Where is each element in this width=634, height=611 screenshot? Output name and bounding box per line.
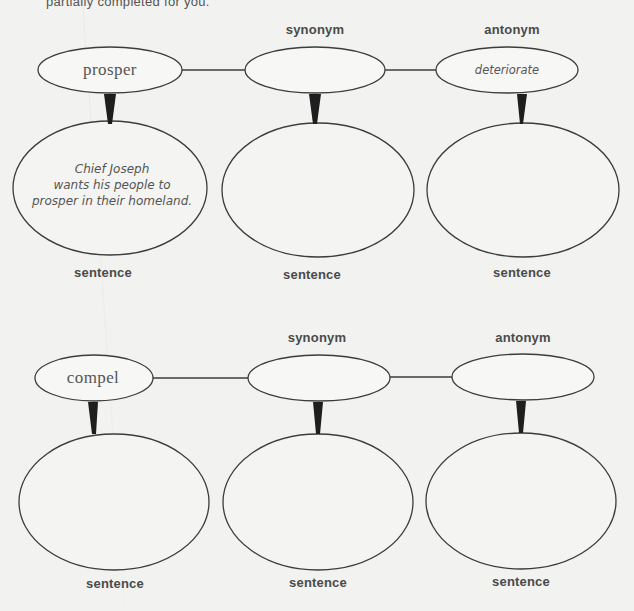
synonym-header: synonym	[288, 330, 346, 345]
sentence-label: sentence	[289, 575, 347, 590]
sentence-input[interactable]	[448, 145, 598, 235]
sentence-input[interactable]	[446, 456, 596, 546]
sentence-label: sentence	[493, 265, 551, 280]
sentence-input[interactable]	[243, 145, 393, 235]
synonym-oval	[248, 355, 390, 401]
antonym-oval	[452, 354, 594, 400]
sentence-line: Chief Joseph	[32, 161, 192, 177]
vocab-word: prosper	[83, 60, 137, 80]
antonym-header: antonym	[495, 330, 551, 345]
sentence-label: sentence	[74, 265, 132, 280]
sentence-input[interactable]	[243, 457, 393, 547]
antonym-input[interactable]: deteriorate	[475, 62, 539, 78]
sentence-label: sentence	[86, 576, 144, 591]
vocab-word: compel	[67, 368, 119, 388]
sentence-line: wants his people to	[32, 177, 192, 193]
sentence-input[interactable]: Chief Joseph wants his people to prosper…	[32, 161, 192, 209]
synonym-oval	[245, 47, 385, 93]
sentence-input[interactable]	[39, 457, 189, 547]
sentence-label: sentence	[283, 267, 341, 282]
sentence-label: sentence	[492, 574, 550, 589]
antonym-header: antonym	[484, 22, 540, 37]
sentence-line: prosper in their homeland.	[32, 193, 192, 209]
synonym-header: synonym	[286, 22, 344, 37]
